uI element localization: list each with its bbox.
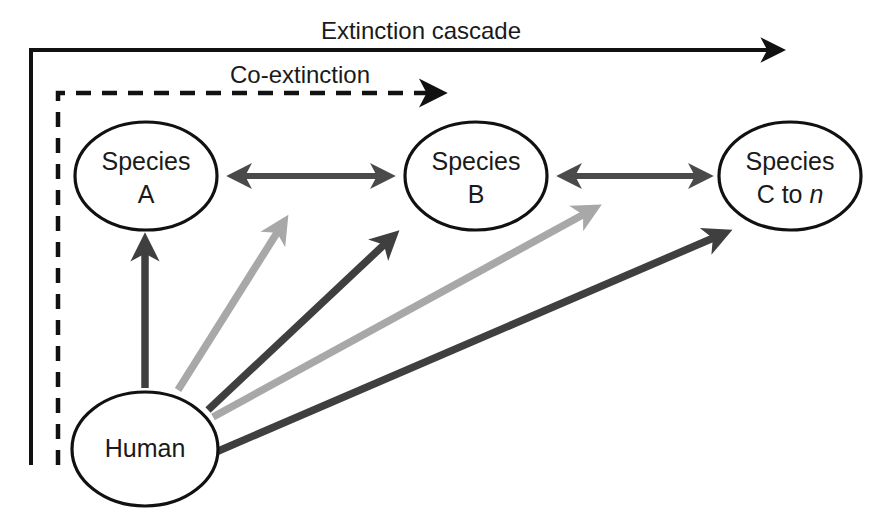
extinction-cascade-diagram: Species A Species B Species C to n Human… [0, 0, 885, 532]
node-species-b[interactable]: Species B [405, 122, 547, 230]
species-b-label-line2: B [468, 180, 485, 208]
node-species-a[interactable]: Species A [75, 122, 217, 230]
species-c-ellipse [719, 122, 861, 230]
human-to-species-b-arrow-light [178, 228, 280, 390]
human-label: Human [105, 434, 186, 462]
species-c-label-line1: Species [746, 147, 835, 175]
species-c-range-prefix: C to [757, 180, 810, 208]
species-b-ellipse [405, 122, 547, 230]
human-to-species-c-arrow-dark [216, 236, 718, 452]
species-a-label-line2: A [138, 180, 155, 208]
human-to-species-b-arrow-dark [208, 241, 388, 410]
extinction-cascade-label: Extinction cascade [321, 17, 521, 44]
node-human[interactable]: Human [72, 392, 218, 506]
species-c-label-line2: C to n [757, 180, 824, 208]
species-b-label-line1: Species [432, 147, 521, 175]
node-species-c[interactable]: Species C to n [719, 122, 861, 230]
species-a-label-line1: Species [102, 147, 191, 175]
coextinction-label: Co-extinction [230, 61, 370, 88]
diagram-canvas: Species A Species B Species C to n Human… [0, 0, 885, 532]
species-a-ellipse [75, 122, 217, 230]
species-c-range-n: n [809, 180, 823, 208]
